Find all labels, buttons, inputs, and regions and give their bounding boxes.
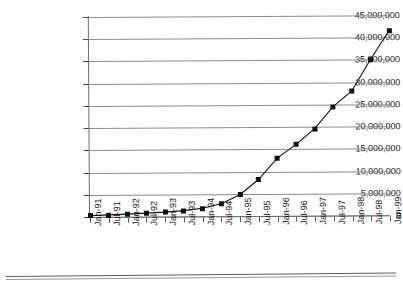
data-point-marker (349, 88, 354, 93)
data-point-marker (368, 57, 373, 62)
data-point-marker (293, 142, 298, 147)
data-point-marker (200, 206, 205, 211)
data-point-marker (237, 192, 242, 197)
data-point-marker (144, 211, 149, 216)
data-point-marker (386, 28, 391, 33)
data-point-marker (256, 177, 261, 182)
data-point-marker (106, 212, 111, 217)
data-point-marker (125, 212, 130, 217)
data-point-marker (312, 126, 317, 131)
data-point-marker (331, 104, 336, 109)
data-point-marker (181, 208, 186, 213)
data-point-marker (162, 210, 167, 215)
data-point-marker (275, 156, 280, 161)
data-point-marker (219, 201, 224, 206)
data-point-marker (87, 213, 92, 218)
